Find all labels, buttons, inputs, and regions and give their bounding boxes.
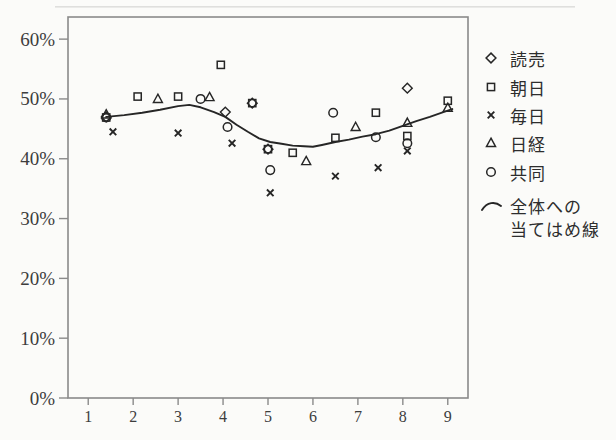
legend-label-kyodo: 共同 bbox=[510, 160, 546, 185]
legend-label-fit-line: 全体への当てはめ線 bbox=[510, 196, 600, 242]
marker-square-asahi bbox=[372, 109, 379, 116]
legend-label-nikkei: 日経 bbox=[510, 131, 546, 156]
marker-square-asahi bbox=[332, 134, 339, 141]
legend-label-asahi: 朝日 bbox=[510, 75, 546, 100]
marker-x-mainichi bbox=[110, 129, 117, 136]
marker-square bbox=[487, 83, 494, 90]
x-tick-label: 2 bbox=[129, 408, 137, 425]
fit-line-curve bbox=[482, 203, 501, 210]
marker-triangle-nikkei bbox=[205, 92, 214, 100]
marker-x-mainichi bbox=[175, 130, 182, 137]
x-tick-label: 1 bbox=[84, 408, 92, 425]
marker-triangle-nikkei bbox=[302, 156, 311, 164]
marker-x-mainichi bbox=[267, 190, 274, 197]
y-tick-label: 0% bbox=[30, 388, 56, 409]
legend-item-kyodo: 共同 bbox=[480, 161, 546, 183]
x-tick-label: 3 bbox=[174, 408, 182, 425]
marker-square-asahi bbox=[289, 149, 296, 156]
legend-item-nikkei: 日経 bbox=[480, 132, 546, 154]
marker-triangle-nikkei bbox=[351, 122, 360, 130]
marker-square-asahi bbox=[217, 61, 224, 68]
legend-label-yomiuri: 読売 bbox=[510, 46, 546, 71]
square-legend-icon bbox=[480, 76, 502, 98]
x-tick-label: 5 bbox=[264, 408, 272, 425]
y-tick-label: 10% bbox=[20, 328, 55, 349]
legend-item-fit-line: 全体への当てはめ線 bbox=[480, 196, 600, 242]
legend: 読売朝日毎日日経共同全体への当てはめ線 bbox=[480, 0, 616, 440]
marker-diamond-yomiuri bbox=[402, 83, 412, 93]
x-tick-label: 8 bbox=[399, 408, 407, 425]
y-tick-label: 20% bbox=[20, 268, 55, 289]
fit-line bbox=[106, 105, 452, 147]
legend-item-mainichi: 毎日 bbox=[480, 104, 546, 126]
legend-label-mainichi: 毎日 bbox=[510, 103, 546, 128]
marker-x-mainichi bbox=[229, 140, 236, 147]
y-tick-label: 40% bbox=[20, 148, 55, 169]
fit-line-legend-icon bbox=[480, 196, 502, 218]
marker-x-mainichi bbox=[404, 148, 411, 155]
x-tick-label: 4 bbox=[219, 408, 227, 425]
circle-legend-icon bbox=[480, 161, 502, 183]
y-tick-label: 30% bbox=[20, 208, 55, 229]
marker-triangle-nikkei bbox=[153, 94, 162, 102]
marker-diamond bbox=[486, 53, 496, 63]
x-tick-label: 6 bbox=[309, 408, 317, 425]
marker-circle bbox=[487, 168, 496, 177]
y-tick-label: 50% bbox=[20, 88, 55, 109]
marker-x-mainichi bbox=[332, 173, 339, 180]
marker-x-mainichi bbox=[375, 164, 382, 171]
marker-circle-kyodo bbox=[223, 123, 232, 132]
marker-x bbox=[488, 112, 495, 119]
legend-item-yomiuri: 読売 bbox=[480, 47, 546, 69]
diamond-legend-icon bbox=[480, 47, 502, 69]
triangle-legend-icon bbox=[480, 132, 502, 154]
chart-figure: 0%10%20%30%40%50%60%123456789 読売朝日毎日日経共同… bbox=[0, 0, 616, 440]
marker-square-asahi bbox=[175, 93, 182, 100]
plot-border bbox=[68, 17, 468, 398]
marker-triangle bbox=[487, 138, 496, 146]
marker-square-asahi bbox=[134, 93, 141, 100]
x-tick-label: 7 bbox=[354, 408, 362, 425]
legend-item-asahi: 朝日 bbox=[480, 76, 546, 98]
marker-circle-kyodo bbox=[329, 108, 338, 117]
marker-circle-kyodo bbox=[196, 95, 205, 104]
marker-circle-kyodo bbox=[266, 166, 275, 175]
y-tick-label: 60% bbox=[20, 29, 55, 50]
x-legend-icon bbox=[480, 104, 502, 126]
x-tick-label: 9 bbox=[444, 408, 452, 425]
